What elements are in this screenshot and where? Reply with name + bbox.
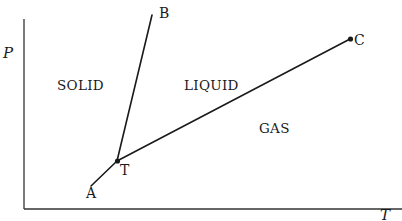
- point-label-b: B: [159, 5, 169, 21]
- y-axis-label: P: [2, 44, 14, 62]
- point-label-c: C: [354, 32, 365, 48]
- sublimation-curve: [91, 161, 117, 186]
- region-label-liquid: LIQUID: [184, 77, 239, 93]
- phase-diagram: P T A B C T SOLID LIQUID GAS: [0, 0, 402, 221]
- x-axis-label: T: [380, 206, 391, 221]
- melting-curve: [117, 15, 152, 161]
- point-label-t: T: [120, 162, 130, 178]
- point-label-a: A: [85, 185, 97, 201]
- critical-point-dot: [348, 36, 353, 41]
- region-label-solid: SOLID: [57, 77, 104, 93]
- vaporization-curve: [117, 39, 350, 161]
- region-label-gas: GAS: [259, 120, 290, 136]
